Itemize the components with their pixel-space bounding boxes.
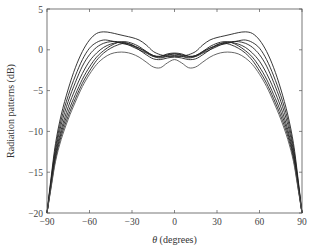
x-tick-label: 0 — [172, 217, 177, 227]
y-axis-label: Radiation patterns (dB) — [5, 64, 17, 158]
x-tick-label: 30 — [212, 217, 222, 227]
x-tick-label: 90 — [297, 217, 307, 227]
x-tick-label: −60 — [82, 217, 97, 227]
radiation-pattern-chart: −90−60−300306090 −20−15−10−505 θ (degree… — [0, 0, 315, 252]
y-tick-label: 0 — [38, 45, 43, 55]
y-tick-label: −20 — [28, 209, 43, 219]
y-tick-label: −10 — [28, 127, 43, 137]
x-tick-label: −30 — [125, 217, 140, 227]
pattern-line-7 — [47, 52, 302, 213]
x-tick-label: 60 — [255, 217, 265, 227]
y-tick-label: 5 — [38, 5, 43, 15]
pattern-line-3 — [47, 41, 302, 213]
y-axis-ticks: −20−15−10−505 — [28, 5, 302, 219]
axes-frame — [47, 9, 302, 213]
pattern-line-1 — [47, 32, 302, 213]
pattern-line-2 — [47, 40, 302, 213]
plot-lines — [47, 32, 302, 213]
x-tick-label: −90 — [40, 217, 55, 227]
y-tick-label: −5 — [33, 86, 43, 96]
x-axis-label: θ (degrees) — [152, 234, 197, 246]
x-axis-ticks: −90−60−300306090 — [40, 9, 307, 227]
x-axis-label-unit: (degrees) — [157, 234, 197, 246]
y-tick-label: −15 — [28, 168, 43, 178]
pattern-line-4 — [47, 42, 302, 213]
